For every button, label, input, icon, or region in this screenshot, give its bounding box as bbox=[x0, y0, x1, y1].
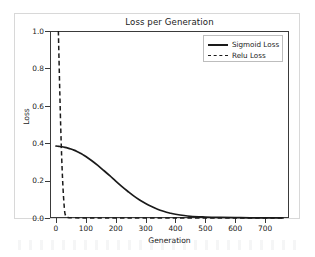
y-tick-label: 0.2 bbox=[18, 176, 44, 185]
y-tick-label: 0.0 bbox=[18, 214, 44, 223]
x-tick-label: 700 bbox=[252, 224, 278, 233]
x-tick-label: 400 bbox=[162, 224, 188, 233]
x-tick-label: 600 bbox=[222, 224, 248, 233]
x-tick-label: 500 bbox=[192, 224, 218, 233]
series-line-sigmoid-loss bbox=[56, 146, 283, 218]
plot-area-wrapper: Loss per Generation Loss Generation 0.00… bbox=[0, 0, 315, 257]
y-tick-label: 0.4 bbox=[18, 139, 44, 148]
legend-label-sigmoid-loss: Sigmoid Loss bbox=[232, 40, 279, 49]
legend-swatch-solid-icon bbox=[208, 41, 228, 49]
legend-item-relu-loss[interactable]: Relu Loss bbox=[208, 50, 278, 61]
legend-swatch-dashed-icon bbox=[208, 52, 228, 60]
x-tick-mark bbox=[56, 218, 57, 223]
y-axis-label: Loss bbox=[22, 87, 31, 147]
image-artifact-band bbox=[18, 240, 298, 250]
x-tick-label: 200 bbox=[103, 224, 129, 233]
figure-canvas: Loss per Generation Loss Generation 0.00… bbox=[0, 0, 315, 257]
legend-item-sigmoid-loss[interactable]: Sigmoid Loss bbox=[208, 39, 278, 50]
x-tick-label: 300 bbox=[133, 224, 159, 233]
chart-title: Loss per Generation bbox=[50, 17, 289, 27]
chart-legend[interactable]: Sigmoid Loss Relu Loss bbox=[203, 35, 283, 62]
y-tick-label: 0.6 bbox=[18, 102, 44, 111]
legend-label-relu-loss: Relu Loss bbox=[232, 51, 266, 60]
x-tick-label: 0 bbox=[43, 224, 69, 233]
y-tick-label: 1.0 bbox=[18, 27, 44, 36]
x-tick-label: 100 bbox=[73, 224, 99, 233]
y-tick-label: 0.8 bbox=[18, 64, 44, 73]
y-tick-mark bbox=[45, 218, 50, 219]
